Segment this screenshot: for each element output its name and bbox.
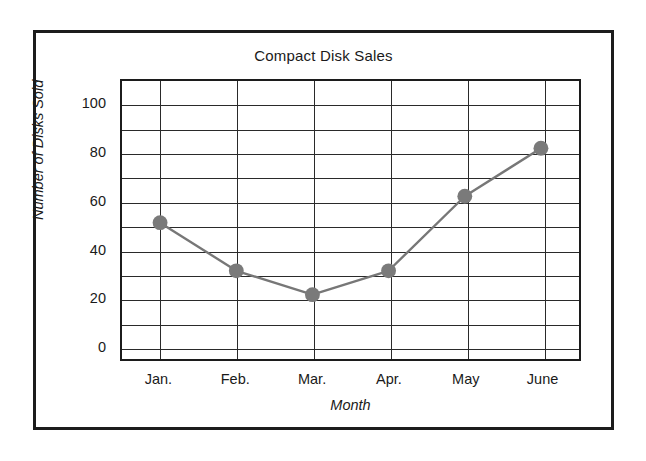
x-axis-tick-label: June — [498, 371, 588, 387]
line-series-layer — [122, 81, 579, 359]
y-axis-tick-label: 40 — [60, 242, 106, 258]
data-point-marker — [229, 263, 244, 278]
y-axis-tick-label: 100 — [60, 95, 106, 111]
y-axis-tick-label: 20 — [60, 290, 106, 306]
data-point-marker — [305, 287, 320, 302]
y-axis-tick-label: 60 — [60, 193, 106, 209]
plot-area — [120, 79, 581, 361]
chart-figure-frame: Compact Disk Sales Number of Disks Sold … — [33, 30, 614, 430]
data-point-marker — [533, 141, 548, 156]
y-axis-tick-label: 80 — [60, 144, 106, 160]
data-point-marker — [153, 215, 168, 230]
y-axis-title: Number of Disks Sold — [30, 80, 46, 220]
chart-title: Compact Disk Sales — [36, 47, 611, 64]
data-point-marker — [457, 189, 472, 204]
series-markers — [153, 141, 549, 302]
series-line — [160, 148, 541, 294]
data-point-marker — [381, 263, 396, 278]
y-axis-tick-label: 0 — [60, 339, 106, 355]
x-axis-title: Month — [120, 397, 581, 413]
